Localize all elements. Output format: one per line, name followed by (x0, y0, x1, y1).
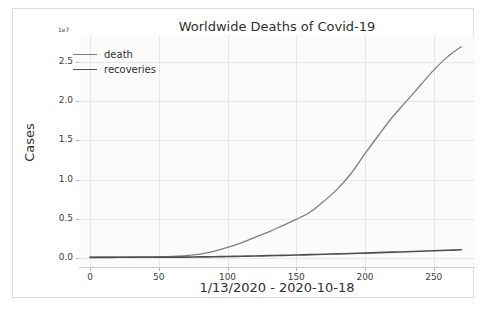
y-axis-label: Cases (22, 103, 37, 183)
x-tick-mark (90, 268, 91, 271)
x-tick-label: 100 (208, 272, 248, 282)
x-tick-mark (159, 268, 160, 271)
x-axis-spine (79, 267, 475, 268)
y-tick-label: 1.5 (39, 134, 73, 144)
figure-frame: Worldwide Deaths of Covid-19 1e7 Cases 1… (12, 8, 474, 298)
y-tick-label: 2.0 (39, 95, 73, 105)
legend-item-death[interactable]: death (73, 47, 156, 62)
y-tick-label: 1.0 (39, 174, 73, 184)
x-axis-label: 1/13/2020 - 2020-10-18 (79, 280, 475, 295)
legend-label: death (104, 49, 133, 60)
chart-page: Worldwide Deaths of Covid-19 1e7 Cases 1… (0, 0, 499, 316)
x-tick-label: 150 (276, 272, 316, 282)
x-tick-label: 0 (70, 272, 110, 282)
y-tick-mark (76, 258, 79, 259)
x-tick-mark (365, 268, 366, 271)
y-tick-label: 0.0 (39, 252, 73, 262)
x-tick-mark (228, 268, 229, 271)
legend-item-recoveries[interactable]: recoveries (73, 62, 156, 77)
y-tick-mark (76, 140, 79, 141)
legend-line-swatch (73, 54, 97, 55)
x-tick-mark (296, 268, 297, 271)
x-tick-label: 250 (414, 272, 454, 282)
legend-line-swatch (73, 69, 97, 70)
chart-legend: deathrecoveries (69, 45, 160, 79)
legend-label: recoveries (104, 64, 156, 75)
x-tick-label: 50 (139, 272, 179, 282)
y-tick-mark (76, 101, 79, 102)
x-tick-label: 200 (345, 272, 385, 282)
y-axis-offset-label: 1e7 (58, 26, 69, 33)
x-tick-mark (434, 268, 435, 271)
y-tick-label: 0.5 (39, 213, 73, 223)
y-tick-mark (76, 219, 79, 220)
y-tick-mark (76, 180, 79, 181)
y-tick-label: 2.5 (39, 56, 73, 66)
chart-title: Worldwide Deaths of Covid-19 (79, 19, 475, 34)
